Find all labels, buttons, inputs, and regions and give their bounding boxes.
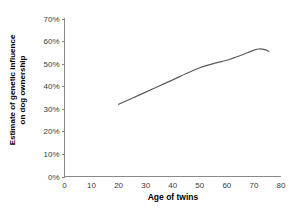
y-axis-tick-labels: 0%10%20%30%40%50%60%70%	[43, 15, 59, 182]
x-tick-label: 0	[62, 181, 67, 190]
y-tick-label: 60%	[43, 37, 59, 46]
x-tick-label: 20	[114, 181, 123, 190]
y-tick-label: 40%	[43, 82, 59, 91]
y-tick-label: 20%	[43, 127, 59, 136]
x-axis-title: Age of twins	[64, 192, 282, 202]
x-tick-label: 80	[277, 181, 286, 190]
x-tick-label: 70	[249, 181, 258, 190]
data-series-line	[119, 49, 269, 104]
plot-area: 0%10%20%30%40%50%60%70% 0102030405060708…	[0, 0, 295, 211]
x-tick-label: 50	[195, 181, 204, 190]
x-tick-label: 10	[87, 181, 96, 190]
y-tick-label: 50%	[43, 60, 59, 69]
x-tick-label: 60	[222, 181, 231, 190]
x-axis-tick-labels: 01020304050607080	[62, 181, 286, 190]
y-tick-label: 70%	[43, 15, 59, 24]
y-tick-label: 0%	[48, 173, 60, 182]
x-tick-label: 30	[141, 181, 150, 190]
genetic-influence-line-chart: Estimate of genetic influence on dog own…	[0, 0, 295, 211]
y-tick-label: 30%	[43, 105, 59, 114]
x-tick-label: 40	[168, 181, 177, 190]
y-tick-label: 10%	[43, 150, 59, 159]
